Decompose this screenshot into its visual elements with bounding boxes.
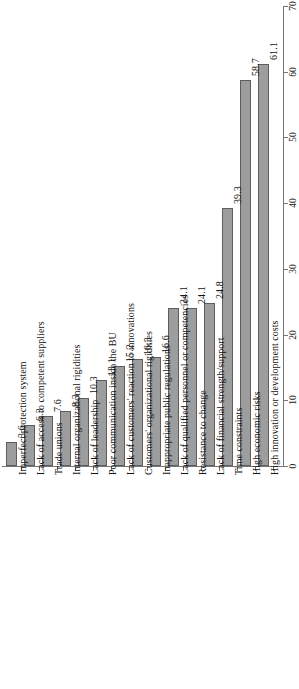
category-label: High innovation or development costs <box>269 320 280 475</box>
bar-value-label: 24.8 <box>214 281 225 299</box>
category-label: Lack of financial strength/support <box>215 338 226 476</box>
bar-value-label: 39.3 <box>232 186 243 204</box>
bar <box>6 442 17 466</box>
category-label: Resistance to change <box>197 390 208 475</box>
value-axis-tick-label: 10 <box>288 380 298 420</box>
category-label: Customers' organizational rigidities <box>143 331 154 475</box>
value-axis-tick-label: 70 <box>288 0 298 26</box>
category-label: High economic risks <box>251 391 262 475</box>
category-label: Lack of customers' reaction to innovatio… <box>125 303 136 475</box>
bar-value-label: 24.1 <box>196 286 207 304</box>
bar-value-label: 7.6 <box>52 399 63 412</box>
value-axis-tick-label: 20 <box>288 315 298 355</box>
category-label: Lack of qualified personnel or competenc… <box>179 295 190 475</box>
bar-value-label: 10.3 <box>88 376 99 394</box>
bar-value-label: 58.7 <box>250 58 261 76</box>
category-label: Inappropriate public regulations <box>161 345 172 475</box>
category-label: Lack of leadership <box>89 400 100 475</box>
value-axis-tick-label: 40 <box>288 183 298 223</box>
value-axis-line <box>283 6 284 467</box>
category-label: Lack of access to competent suppliers <box>35 321 46 475</box>
value-axis-tick-label: 50 <box>288 117 298 157</box>
category-label: Imperfect protection system <box>17 361 28 475</box>
value-axis-tick-label: 60 <box>288 52 298 92</box>
category-label: Trade unions <box>53 422 64 475</box>
value-axis-tick-label: 0 <box>288 446 298 486</box>
value-axis-tick-label: 30 <box>288 249 298 289</box>
category-label: Internal organizational rigidities <box>71 345 82 475</box>
category-label: Poor communication inside the BU <box>107 332 118 475</box>
plot-area: 010203040506070 3.66.37.68.310.313.115.2… <box>0 0 299 689</box>
bar-value-label: 61.1 <box>268 43 279 61</box>
category-label: Time constraints <box>233 408 244 475</box>
bar-chart: 010203040506070 3.66.37.68.310.313.115.2… <box>0 0 299 689</box>
